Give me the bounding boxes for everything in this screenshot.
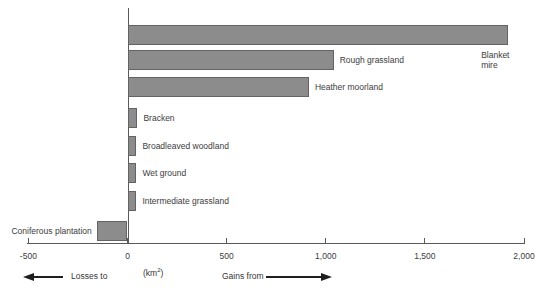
bar-label-bracken: Bracken <box>143 114 174 124</box>
axis-unit-label: (km2) <box>143 268 163 278</box>
bar-heather-moorland <box>128 77 309 97</box>
bar-label-heather-moorland: Heather moorland <box>315 83 383 93</box>
bar-label-rough-grassland: Rough grassland <box>340 56 404 66</box>
bar-broadleaved-woodland <box>128 136 137 156</box>
bar-chart: -50005001,0001,5002,000Blanket mireRough… <box>0 0 552 296</box>
unit-prefix: (km <box>143 268 157 278</box>
bar-label-broadleaved-woodland: Broadleaved woodland <box>142 142 228 152</box>
x-tick-label: 1,500 <box>403 251 447 261</box>
bar-wet-ground <box>128 163 137 183</box>
x-tick-label: -500 <box>6 251 50 261</box>
bar-coniferous-plantation <box>97 221 128 241</box>
bar-blanket-mire <box>128 25 509 45</box>
x-tick <box>325 238 326 243</box>
x-tick <box>424 238 425 243</box>
x-tick-label: 0 <box>106 251 150 261</box>
bar-rough-grassland <box>128 50 334 70</box>
gains-direction-label: Gains from <box>222 271 264 281</box>
figure: -50005001,0001,5002,000Blanket mireRough… <box>0 0 552 296</box>
x-tick <box>524 238 525 243</box>
x-tick <box>28 238 29 243</box>
x-tick-label: 2,000 <box>502 251 546 261</box>
x-tick-label: 500 <box>205 251 249 261</box>
losses-direction-label: Losses to <box>71 271 107 281</box>
bar-label-coniferous-plantation: Coniferous plantation <box>0 227 92 237</box>
bar-intermediate-grassland <box>128 191 137 211</box>
arrow-right-icon <box>321 273 332 281</box>
gains-arrow-icon <box>266 273 332 281</box>
bar-label-blanket-mire: Blanket mire <box>481 51 513 70</box>
bar-label-wet-ground: Wet ground <box>142 169 186 179</box>
x-tick <box>226 238 227 243</box>
bar-bracken <box>128 108 138 128</box>
arrow-shaft <box>266 276 323 278</box>
bar-label-intermediate-grassland: Intermediate grassland <box>142 197 228 207</box>
losses-arrow-icon <box>23 273 63 281</box>
x-axis-line <box>27 243 525 244</box>
unit-suffix: ) <box>161 268 164 278</box>
x-tick-label: 1,000 <box>304 251 348 261</box>
arrow-shaft <box>32 276 63 278</box>
